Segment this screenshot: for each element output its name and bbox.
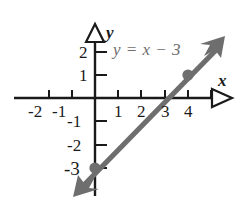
- x-tick-label-2: 2: [137, 103, 146, 120]
- y-tick-label-neg2: -2: [67, 137, 81, 154]
- coordinate-plane-figure: y x y = x − 3 -2 -1 1 2 3 4 2 1 -1 -2 -3: [0, 0, 247, 202]
- x-axis-arrowhead-icon: [212, 89, 232, 107]
- y-tick-label-1: 1: [79, 67, 88, 84]
- plotted-line-y-equals-x-minus-3: [83, 48, 218, 186]
- graph-canvas: [0, 0, 247, 202]
- equation-label: y = x − 3: [113, 41, 181, 58]
- y-tick-label-neg3: -3: [64, 159, 80, 178]
- x-tick-label-4: 4: [184, 103, 193, 120]
- x-tick-label-neg2: -2: [28, 103, 42, 120]
- y-tick-label-2: 2: [79, 44, 88, 61]
- x-tick-label-3: 3: [161, 103, 170, 120]
- y-axis-ticks: [95, 52, 107, 168]
- x-tick-label-neg1: -1: [52, 103, 66, 120]
- y-tick-label-neg1: -1: [67, 113, 81, 130]
- x-tick-label-1: 1: [114, 103, 123, 120]
- point-y-intercept-0-neg3: [89, 162, 100, 173]
- x-axis-label: x: [218, 72, 227, 89]
- y-axis-arrowhead-icon: [86, 24, 104, 42]
- y-axis-label: y: [106, 24, 114, 41]
- point-4-1: [182, 69, 193, 80]
